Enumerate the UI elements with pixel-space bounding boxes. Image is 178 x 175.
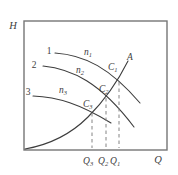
diagram-canvas: H Q A 1 2 3 n1 n2 n3 C1 C2 C3 Q3 Q2 Q1 xyxy=(0,0,178,175)
operating-point-label-C2: C2 xyxy=(99,84,109,95)
speed-label-n3: n3 xyxy=(59,85,68,96)
flow-tick-label-Q3: Q3 xyxy=(83,156,94,167)
pump-curves-figure: H Q A 1 2 3 n1 n2 n3 C1 C2 C3 Q3 Q2 Q1 xyxy=(0,0,178,175)
speed-label-n2: n2 xyxy=(76,65,85,76)
speed-label-n1: n1 xyxy=(84,47,92,58)
system-curve-label: A xyxy=(126,52,133,62)
pump-curve-3 xyxy=(33,96,111,123)
flow-tick-label-Q1: Q1 xyxy=(110,156,120,167)
flow-tick-label-Q2: Q2 xyxy=(98,156,109,167)
y-axis-label: H xyxy=(8,20,18,31)
operating-point-label-C3: C3 xyxy=(83,99,93,110)
x-axis-label: Q xyxy=(154,154,162,165)
plot-frame xyxy=(24,21,167,150)
curve-1-index-label: 1 xyxy=(47,46,52,56)
curve-3-index-label: 3 xyxy=(26,87,31,97)
curve-2-index-label: 2 xyxy=(32,60,37,70)
operating-point-label-C1: C1 xyxy=(108,62,118,73)
